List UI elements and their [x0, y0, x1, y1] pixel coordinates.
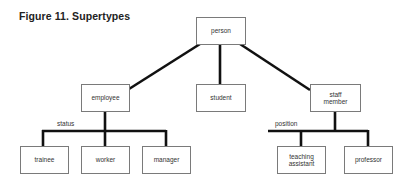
node-professor: professor [344, 146, 393, 174]
node-staff-member: staff member [310, 84, 361, 112]
node-worker: worker [81, 146, 130, 174]
node-teaching-assistant: teaching assistant [277, 146, 326, 174]
node-person: person [196, 17, 246, 45]
node-employee: employee [81, 84, 130, 112]
discriminator-position: position [275, 120, 297, 127]
node-student: student [196, 84, 246, 112]
node-trainee: trainee [20, 146, 69, 174]
node-staff-member-label: staff member [321, 91, 351, 106]
node-manager: manager [142, 146, 191, 174]
node-teaching-assistant-label: teaching assistant [284, 153, 320, 168]
discriminator-status: status [57, 120, 74, 127]
